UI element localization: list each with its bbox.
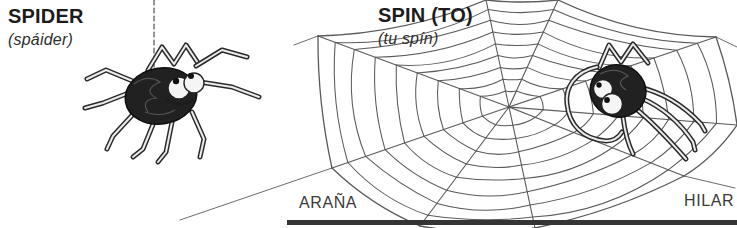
web-thread <box>493 32 543 34</box>
web-thread <box>466 164 521 167</box>
web-thread <box>554 10 698 44</box>
spider-pupil <box>188 73 194 79</box>
web-thread <box>351 50 365 157</box>
web-thread <box>486 0 558 2</box>
web-thread <box>348 163 428 216</box>
web-thread <box>513 117 535 125</box>
spider-pupil <box>596 82 601 87</box>
web-thread <box>437 203 530 210</box>
pronunciation-spider: (spáider) <box>8 31 84 49</box>
web-thread <box>490 20 548 24</box>
web-thread <box>522 79 563 89</box>
entry-spider: SPIDER (spáider) <box>8 6 84 49</box>
web-thread <box>385 150 447 191</box>
pronunciation-spin: (tu spín) <box>378 30 473 48</box>
web-thread <box>459 89 463 123</box>
web-thread <box>482 116 495 125</box>
web-thread <box>535 110 543 118</box>
spider-leg <box>196 50 247 66</box>
web-thread <box>334 42 348 162</box>
web-thread <box>716 37 737 125</box>
web-thread <box>555 112 569 125</box>
translation-hilar: HILAR <box>684 192 734 210</box>
entry-spin: SPIN (TO) (tu spín) <box>378 5 473 48</box>
web-thread <box>424 136 466 164</box>
term-spin: SPIN (TO) <box>378 5 473 26</box>
web-thread <box>480 96 482 116</box>
spider-pupil <box>604 97 610 103</box>
web-thread <box>501 67 528 69</box>
web-thread <box>503 79 522 80</box>
dictionary-illustration-canvas <box>0 0 737 228</box>
web-thread <box>516 91 540 97</box>
spider-body <box>121 62 202 130</box>
spider-eye <box>602 94 623 115</box>
term-spider: SPIDER <box>8 6 84 27</box>
web-thread <box>488 10 553 13</box>
web-thread <box>375 57 386 149</box>
web-thread <box>519 133 574 152</box>
web-thread <box>437 81 443 130</box>
spider-leg <box>85 92 131 108</box>
web-thread <box>506 91 517 92</box>
web-thread <box>527 155 631 191</box>
translation-arana: ARAÑA <box>299 194 357 212</box>
web-thread <box>480 91 505 96</box>
web-thread <box>522 140 594 165</box>
web-thread <box>498 56 533 58</box>
bottom-rule <box>287 220 737 225</box>
web-thread <box>486 138 516 139</box>
web-thread <box>540 97 543 110</box>
spider-leg <box>638 87 705 131</box>
web-thread <box>463 123 486 138</box>
web-thread <box>495 44 538 46</box>
web-thread <box>496 125 513 126</box>
web-thread <box>476 151 518 154</box>
web-thread <box>459 79 503 88</box>
web-thread <box>447 190 528 196</box>
web-thread <box>420 226 535 228</box>
web-thread <box>533 56 609 74</box>
web-hub <box>507 105 511 109</box>
web-thread <box>457 177 525 180</box>
web-thread <box>444 130 477 151</box>
web-thread <box>516 125 555 139</box>
web-thread <box>396 65 404 143</box>
spider-leg <box>638 87 705 131</box>
web-thread <box>549 20 677 50</box>
hanging-spider-illustration <box>85 0 259 162</box>
web-thread <box>416 73 424 136</box>
web-thread <box>697 43 716 123</box>
spider-pupil <box>173 78 179 84</box>
web-thread <box>294 36 318 45</box>
web-thread <box>684 176 735 188</box>
web-thread <box>318 36 332 168</box>
